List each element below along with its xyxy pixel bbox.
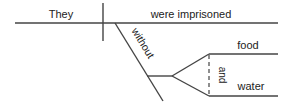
- object-text-food: food: [237, 39, 258, 51]
- fork-upper: [172, 54, 209, 76]
- object-text-water: water: [237, 80, 265, 92]
- conjunction-text: and: [217, 67, 228, 84]
- sentence-diagram: They were imprisoned without food water …: [0, 0, 289, 107]
- fork-lower: [172, 76, 209, 96]
- subject-text: They: [49, 8, 74, 20]
- preposition-text: without: [129, 25, 157, 61]
- predicate-text: were imprisoned: [150, 8, 232, 20]
